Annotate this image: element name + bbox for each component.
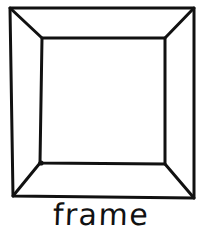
caption-label: frame [0, 198, 202, 232]
illustration-canvas: frame [0, 0, 202, 234]
ink-blot-bottom-left-inner-corner [38, 160, 43, 165]
